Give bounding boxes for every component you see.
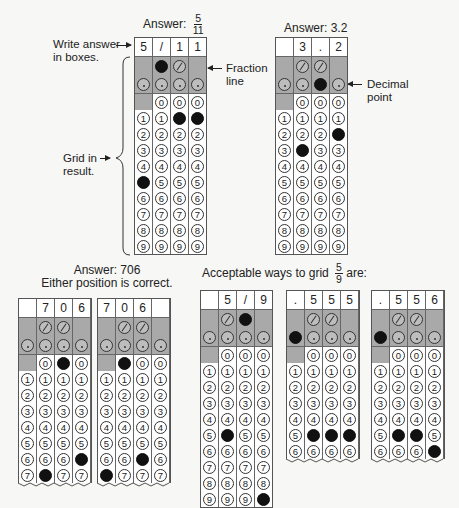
digit-bubble-2[interactable]: 2 [296,128,309,141]
digit-bubble-7[interactable]: 7 [203,461,216,474]
digit-bubble-4[interactable]: 4 [173,160,186,173]
digit-bubble-3[interactable]: 3 [118,405,131,418]
digit-bubble-0[interactable]: 0 [118,357,131,370]
digit-bubble-2[interactable]: 2 [221,381,234,394]
answer-box[interactable]: 7 [37,299,54,318]
decimal-bubble[interactable] [239,331,252,344]
decimal-bubble[interactable] [428,331,441,344]
digit-bubble-4[interactable]: 4 [136,421,149,434]
digit-bubble-9[interactable]: 9 [314,240,327,253]
fraction-bubble[interactable] [325,313,338,326]
digit-bubble-5[interactable]: 5 [257,429,270,442]
digit-bubble-6[interactable]: 6 [155,192,168,205]
digit-bubble-4[interactable]: 4 [154,421,167,434]
digit-bubble-7[interactable]: 7 [57,469,70,482]
digit-bubble-3[interactable]: 3 [392,397,405,410]
decimal-bubble[interactable] [221,331,234,344]
digit-bubble-5[interactable]: 5 [325,429,338,442]
digit-bubble-2[interactable]: 2 [257,381,270,394]
answer-box[interactable]: 5 [341,291,358,310]
digit-bubble-1[interactable]: 1 [278,112,291,125]
digit-bubble-5[interactable]: 5 [428,429,441,442]
fraction-bubble[interactable] [155,60,168,73]
digit-bubble-0[interactable]: 0 [39,357,52,370]
digit-bubble-3[interactable]: 3 [136,405,149,418]
digit-bubble-1[interactable]: 1 [118,373,131,386]
answer-box[interactable]: . [372,291,389,310]
digit-bubble-6[interactable]: 6 [428,445,441,458]
digit-bubble-2[interactable]: 2 [410,381,423,394]
decimal-bubble[interactable] [137,78,150,91]
digit-bubble-6[interactable]: 6 [374,445,387,458]
digit-bubble-7[interactable]: 7 [154,469,167,482]
digit-bubble-1[interactable]: 1 [136,373,149,386]
digit-bubble-2[interactable]: 2 [392,381,405,394]
answer-box[interactable] [201,291,218,310]
digit-bubble-1[interactable]: 1 [221,365,234,378]
digit-bubble-9[interactable]: 9 [257,493,270,506]
digit-bubble-8[interactable]: 8 [332,224,345,237]
decimal-bubble[interactable] [307,331,320,344]
digit-bubble-6[interactable]: 6 [100,453,113,466]
fraction-bubble[interactable] [410,313,423,326]
digit-bubble-2[interactable]: 2 [278,128,291,141]
fraction-bubble[interactable] [221,313,234,326]
digit-bubble-1[interactable]: 1 [296,112,309,125]
digit-bubble-4[interactable]: 4 [239,413,252,426]
decimal-bubble[interactable] [191,78,204,91]
digit-bubble-2[interactable]: 2 [332,128,345,141]
digit-bubble-6[interactable]: 6 [136,453,149,466]
digit-bubble-3[interactable]: 3 [39,405,52,418]
digit-bubble-0[interactable]: 0 [307,349,320,362]
digit-bubble-2[interactable]: 2 [100,389,113,402]
digit-bubble-3[interactable]: 3 [154,405,167,418]
answer-box[interactable]: . [287,291,304,310]
digit-bubble-3[interactable]: 3 [191,144,204,157]
digit-bubble-8[interactable]: 8 [257,477,270,490]
digit-bubble-5[interactable]: 5 [155,176,168,189]
digit-bubble-3[interactable]: 3 [137,144,150,157]
digit-bubble-8[interactable]: 8 [137,224,150,237]
digit-bubble-0[interactable]: 0 [343,349,356,362]
digit-bubble-2[interactable]: 2 [137,128,150,141]
digit-bubble-1[interactable]: 1 [410,365,423,378]
digit-bubble-4[interactable]: 4 [278,160,291,173]
digit-bubble-4[interactable]: 4 [118,421,131,434]
digit-bubble-8[interactable]: 8 [203,477,216,490]
digit-bubble-5[interactable]: 5 [343,429,356,442]
digit-bubble-1[interactable]: 1 [257,365,270,378]
digit-bubble-1[interactable]: 1 [203,365,216,378]
digit-bubble-6[interactable]: 6 [75,453,88,466]
answer-box[interactable]: 5 [135,38,152,57]
digit-bubble-3[interactable]: 3 [374,397,387,410]
digit-bubble-7[interactable]: 7 [278,208,291,221]
digit-bubble-3[interactable]: 3 [410,397,423,410]
digit-bubble-4[interactable]: 4 [428,413,441,426]
decimal-bubble[interactable] [39,339,52,352]
digit-bubble-8[interactable]: 8 [191,224,204,237]
digit-bubble-6[interactable]: 6 [118,453,131,466]
fraction-bubble[interactable] [173,60,186,73]
digit-bubble-4[interactable]: 4 [57,421,70,434]
decimal-bubble[interactable] [173,78,186,91]
digit-bubble-5[interactable]: 5 [137,176,150,189]
digit-bubble-5[interactable]: 5 [173,176,186,189]
digit-bubble-2[interactable]: 2 [203,381,216,394]
digit-bubble-0[interactable]: 0 [428,349,441,362]
digit-bubble-9[interactable]: 9 [332,240,345,253]
answer-box[interactable]: 9 [255,291,272,310]
digit-bubble-0[interactable]: 0 [154,357,167,370]
digit-bubble-7[interactable]: 7 [118,469,131,482]
decimal-bubble[interactable] [289,331,302,344]
decimal-bubble[interactable] [314,78,327,91]
digit-bubble-8[interactable]: 8 [239,477,252,490]
answer-box[interactable]: 5 [390,291,407,310]
digit-bubble-3[interactable]: 3 [257,397,270,410]
digit-bubble-4[interactable]: 4 [307,413,320,426]
decimal-bubble[interactable] [325,331,338,344]
digit-bubble-1[interactable]: 1 [100,373,113,386]
digit-bubble-6[interactable]: 6 [154,453,167,466]
digit-bubble-7[interactable]: 7 [136,469,149,482]
digit-bubble-4[interactable]: 4 [191,160,204,173]
digit-bubble-2[interactable]: 2 [191,128,204,141]
